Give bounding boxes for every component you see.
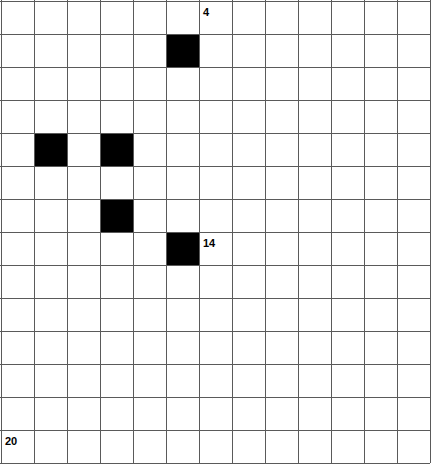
grid-line-horizontal <box>0 232 430 233</box>
grid-cell-filled[interactable] <box>167 233 199 265</box>
grid-cell-filled[interactable] <box>101 134 133 166</box>
grid-line-horizontal <box>0 364 430 365</box>
grid-line-vertical <box>430 0 431 463</box>
grid-cell-filled[interactable] <box>167 35 199 67</box>
grid-cell-filled[interactable] <box>101 200 133 232</box>
cell-label-14: 14 <box>203 238 215 249</box>
grid-line-horizontal <box>0 199 430 200</box>
grid-cell-filled[interactable] <box>35 134 67 166</box>
grid-line-horizontal <box>0 34 430 35</box>
grid-line-horizontal <box>0 1 430 2</box>
grid-line-horizontal <box>0 331 430 332</box>
grid-line-horizontal <box>0 430 430 431</box>
cell-label-20: 20 <box>5 436 17 447</box>
grid-line-horizontal <box>0 298 430 299</box>
grid-line-horizontal <box>0 166 430 167</box>
grid-line-horizontal <box>0 397 430 398</box>
grid-line-horizontal <box>0 67 430 68</box>
cell-label-4: 4 <box>203 7 209 18</box>
grid-line-horizontal <box>0 100 430 101</box>
grid-line-horizontal <box>0 265 430 266</box>
